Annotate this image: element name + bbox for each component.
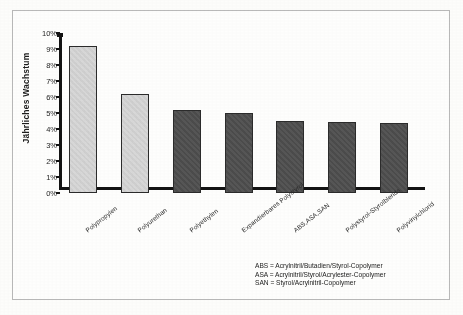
y-tick-mark <box>56 192 60 194</box>
bar-texture <box>122 95 148 192</box>
bar-texture <box>329 123 355 192</box>
bar <box>69 46 97 193</box>
y-axis-title: Jährliches Wachstum <box>19 18 33 178</box>
y-tick-mark <box>56 160 60 162</box>
y-tick-mark <box>56 32 60 34</box>
bar <box>380 123 408 193</box>
bar-texture <box>174 111 200 192</box>
x-label-anchor: Polypropylen <box>84 228 85 229</box>
x-label-anchor: Polyvinylchlorid <box>395 228 396 229</box>
bar <box>121 94 149 193</box>
bar <box>225 113 253 193</box>
bar-texture <box>70 47 96 192</box>
y-tick-mark <box>56 48 60 50</box>
chart-figure: Jährliches Wachstum 10%9%8%7%6%5%4%3%2%1… <box>0 0 463 315</box>
y-tick-mark <box>56 64 60 66</box>
x-label-anchor: ABS,ASA,SAN <box>292 228 293 229</box>
x-label-anchor: Polystyrol-Styrolblends <box>344 228 345 229</box>
x-label-anchor: Expandierbares Polystyrol <box>240 228 241 229</box>
y-tick-label: 10% <box>42 29 57 38</box>
y-tick-mark <box>56 144 60 146</box>
y-axis-title-text: Jährliches Wachstum <box>21 53 31 144</box>
legend-line-abs: ABS = Acrylnitril/Butadien/Styrol-Copoly… <box>255 262 386 271</box>
legend-line-san: SAN = Styrol/Acrylnitril-Copolymer <box>255 279 386 288</box>
legend-line-asa: ASA = Acrylnitril/Styrol/Acrylester-Copo… <box>255 271 386 280</box>
plot-area: 10%9%8%7%6%5%4%3%2%1%0% PolypropylenPoly… <box>61 33 424 193</box>
x-label-anchor: Polyurethan <box>136 228 137 229</box>
y-tick-mark <box>56 80 60 82</box>
y-tick-mark <box>56 176 60 178</box>
bar <box>328 122 356 193</box>
y-tick-mark <box>56 128 60 130</box>
bar <box>173 110 201 193</box>
y-tick-mark <box>56 112 60 114</box>
bar-texture <box>381 124 407 192</box>
legend-block: ABS = Acrylnitril/Butadien/Styrol-Copoly… <box>255 262 386 288</box>
bar-texture <box>226 114 252 192</box>
y-tick-mark <box>56 96 60 98</box>
x-label-anchor: Polyethylen <box>188 228 189 229</box>
